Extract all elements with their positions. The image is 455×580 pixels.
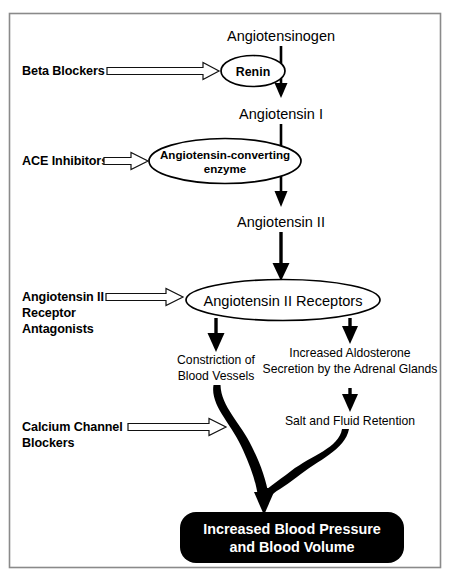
node-ace-label-line2: enzyme: [204, 162, 247, 175]
drug-class-beta-blockers: Beta Blockers: [22, 63, 219, 80]
arrow-converged-to-result: [254, 488, 274, 515]
curve-constriction-to-result: [213, 385, 269, 497]
drug-label-ace-inhibitors: ACE Inhibitors: [22, 154, 108, 168]
pathway-diagram: Renin Angiotensin-converting enzyme Angi…: [0, 0, 455, 580]
drug-label-ccb-line2: Blockers: [22, 436, 74, 450]
drug-label-beta-blockers: Beta Blockers: [22, 64, 105, 78]
node-constriction-label-line2: Blood Vessels: [178, 369, 255, 383]
drug-class-ace-inhibitors: ACE Inhibitors: [22, 153, 148, 170]
node-renin-label: Renin: [236, 65, 270, 79]
result-label-line2: and Blood Volume: [229, 539, 354, 555]
drug-label-arb-line3: Antagonists: [22, 322, 94, 336]
arrow-angiotensin2-to-receptors: [273, 232, 290, 281]
node-angiotensin2-label: Angiotensin II: [237, 214, 325, 230]
drug-class-arb: Angiotensin II Receptor Antagonists: [22, 289, 183, 337]
node-ace-label-line1: Angiotensin-converting: [160, 148, 290, 161]
node-angiotensin1-label: Angiotensin I: [239, 106, 323, 122]
arrow-aldosterone-to-salt: [342, 388, 358, 412]
drug-label-ccb-line1: Calcium Channel: [22, 420, 123, 434]
node-aldosterone-label-line1: Increased Aldosterone: [289, 346, 411, 360]
result-label-line1: Increased Blood Pressure: [203, 521, 381, 537]
node-constriction-label-line1: Constriction of: [177, 353, 256, 367]
node-renin: Renin: [221, 56, 285, 87]
hollow-arrow-ccb: [128, 419, 226, 436]
arrow-receptors-to-constriction: [208, 318, 225, 352]
hollow-arrow-ace-inhibitors: [104, 153, 148, 170]
node-receptors-label: Angiotensin II Receptors: [204, 293, 363, 309]
hollow-arrow-beta-blockers: [107, 63, 219, 80]
node-salt-fluid-label: Salt and Fluid Retention: [285, 414, 415, 428]
drug-label-arb-line1: Angiotensin II: [22, 290, 104, 304]
drug-label-arb-line2: Receptor: [22, 306, 76, 320]
node-angiotensin2-receptors: Angiotensin II Receptors: [186, 280, 380, 321]
arrow-receptors-to-aldosterone: [342, 318, 358, 344]
curve-salt-to-result: [259, 429, 349, 497]
node-ace-enzyme: Angiotensin-converting enzyme: [149, 139, 301, 184]
hollow-arrow-arb: [106, 289, 183, 306]
drug-class-calcium-channel-blockers: Calcium Channel Blockers: [22, 419, 226, 451]
node-angiotensinogen-label: Angiotensinogen: [227, 28, 335, 44]
node-result-box: Increased Blood Pressure and Blood Volum…: [180, 512, 404, 563]
pathway-diagram-canvas: Renin Angiotensin-converting enzyme Angi…: [0, 0, 455, 580]
node-aldosterone-label-line2: Secretion by the Adrenal Glands: [263, 362, 438, 376]
